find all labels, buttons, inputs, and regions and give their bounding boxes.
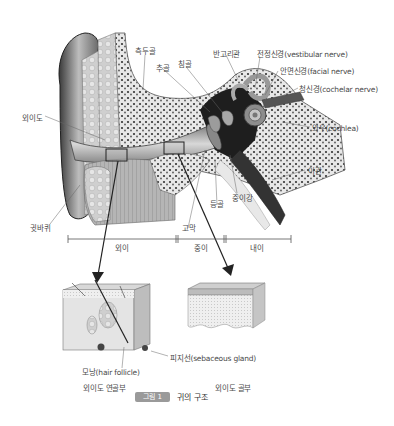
figure-badge: 그림 1 [135, 392, 170, 402]
label-eustachian-tube: 이관 [308, 165, 322, 176]
label-sebaceous-gland: 피지선(sebaceous gland) [170, 352, 256, 363]
label-tympanic-membrane: 고막 [182, 222, 196, 233]
label-vestibular-nerve: 전정신경(vestibular nerve) [257, 48, 348, 59]
label-cartilaginous-part: 외이도 연골부 [83, 382, 126, 393]
cartilaginous-detail-block [63, 280, 150, 351]
label-incus: 침골 [178, 58, 192, 69]
figure-title: 귀의 구조 [177, 391, 208, 402]
label-temporal-bone: 측두골 [135, 45, 155, 56]
label-auricle: 귓바퀴 [30, 222, 50, 233]
region-outer-ear: 외이 [115, 242, 129, 253]
cartilaginous-sample-box [106, 149, 127, 161]
label-external-auditory-canal: 외이도 [22, 112, 42, 123]
label-cochlea: 와우(cochlea) [312, 122, 359, 133]
region-inner-ear: 내이 [250, 242, 264, 253]
label-cochlear-nerve: 청신경(cochelar nerve) [299, 83, 378, 94]
label-semicircular-canals: 반고리관 [213, 48, 240, 59]
bony-detail-block [188, 283, 265, 328]
region-middle-ear: 중이 [194, 242, 208, 253]
label-stapes: 등골 [210, 198, 224, 209]
label-bony-part: 외이도 골부 [215, 382, 251, 393]
label-hair-follicle: 모낭(hair follicle) [82, 366, 140, 377]
label-malleus: 추골 [156, 62, 170, 73]
label-facial-nerve: 안면신경(facial nerve) [280, 65, 354, 76]
label-middle-ear-cavity: 중이강 [232, 192, 252, 203]
bony-sample-box [164, 142, 184, 154]
